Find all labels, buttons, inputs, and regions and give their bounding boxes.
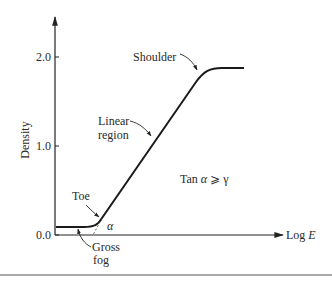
tan-alpha-relation: Tan α ⩾ γ <box>180 172 229 186</box>
toe-label: Toe <box>72 189 90 203</box>
tick-label-1: 1.0 <box>36 139 51 153</box>
tick-label-0: 0.0 <box>36 228 51 242</box>
characteristic-curve-diagram: 2.0 1.0 0.0 Density Log E Shoulder Linea… <box>0 0 332 281</box>
gross-fog-label-1: Gross <box>92 240 120 254</box>
linear-region-arrow <box>130 121 151 136</box>
alpha-label: α <box>107 219 114 233</box>
linear-region-label-2: region <box>98 128 129 142</box>
shoulder-arrow <box>180 54 197 70</box>
y-axis-label: Density <box>18 121 32 158</box>
gross-fog-arrow <box>78 229 91 247</box>
characteristic-curve <box>56 68 244 227</box>
x-axis-label: Log E <box>286 228 316 242</box>
linear-region-label-1: Linear <box>98 114 129 128</box>
tick-label-2: 2.0 <box>36 50 51 64</box>
shoulder-label: Shoulder <box>133 50 176 64</box>
toe-arrow <box>86 205 99 217</box>
gross-fog-label-2: fog <box>93 253 109 267</box>
